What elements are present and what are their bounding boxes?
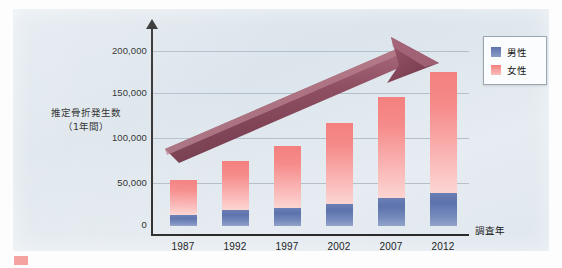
x-tick-label: 2007 <box>361 241 421 252</box>
chart-panel: 200,000 150,000 100,000 50,000 0 <box>13 9 549 251</box>
x-tick-label: 2002 <box>309 241 369 252</box>
x-tick-label: 1992 <box>205 241 265 252</box>
legend-swatch-female-icon <box>491 65 501 75</box>
legend-swatch-male-icon <box>491 47 501 57</box>
y-tick-label: 150,000 <box>87 87 147 98</box>
trend-arrow-icon <box>163 37 463 167</box>
x-axis-title: 調査年 <box>475 223 505 237</box>
bar-segment-male <box>222 210 249 227</box>
x-tick-label: 1997 <box>257 241 317 252</box>
y-tick-label: 50,000 <box>87 177 147 188</box>
legend-label-female: 女性 <box>507 63 527 77</box>
x-tick-label: 2012 <box>413 241 473 252</box>
y-axis-line <box>151 26 153 235</box>
legend-item-female: 女性 <box>491 63 527 77</box>
y-tick-label: 0 <box>87 219 147 230</box>
plot-area: 200,000 150,000 100,000 50,000 0 <box>13 9 549 251</box>
legend-label-male: 男性 <box>507 45 527 59</box>
y-axis-title-line2: （1年間） <box>27 120 145 134</box>
y-tick-label: 200,000 <box>87 45 147 56</box>
footer-marker <box>14 256 28 265</box>
y-tick-label: 100,000 <box>87 132 147 143</box>
bar-segment-male <box>326 204 353 226</box>
y-axis-arrowhead <box>146 19 158 29</box>
bar-segment-male <box>274 208 301 226</box>
chart-legend: 男性 女性 <box>483 36 547 85</box>
gridline-50000 <box>153 183 469 184</box>
bar-segment-female <box>222 161 249 210</box>
bar-segment-female <box>170 180 197 215</box>
x-axis-line <box>151 234 469 236</box>
bar-segment-male <box>430 193 457 226</box>
chart-figure: 200,000 150,000 100,000 50,000 0 <box>0 0 562 268</box>
y-axis-title: 推定骨折発生数 （1年間） <box>27 106 145 134</box>
x-tick-label: 1987 <box>153 241 213 252</box>
bar-segment-male <box>378 198 405 226</box>
legend-item-male: 男性 <box>491 45 527 59</box>
bar-segment-male <box>170 215 197 226</box>
y-axis-title-line1: 推定骨折発生数 <box>27 106 145 120</box>
